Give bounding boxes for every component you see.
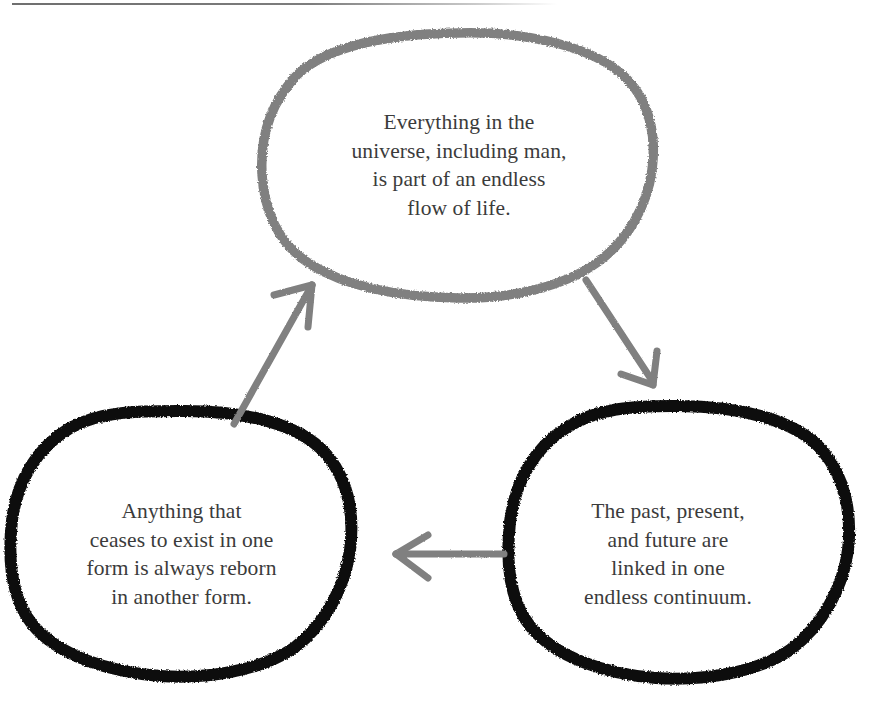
arrow-bottom-right-to-bottom-left[interactable]	[396, 535, 504, 578]
arrow-bottom-left-to-top[interactable]	[234, 285, 312, 424]
diagram-graphics	[0, 0, 870, 714]
bubble-bottom-right[interactable]	[508, 406, 849, 679]
diagram-canvas: Everything in the universe, including ma…	[0, 0, 870, 714]
bubble-top[interactable]	[262, 33, 654, 298]
bubble-bottom-left[interactable]	[10, 411, 351, 677]
arrow-top-to-bottom-right[interactable]	[586, 280, 657, 385]
